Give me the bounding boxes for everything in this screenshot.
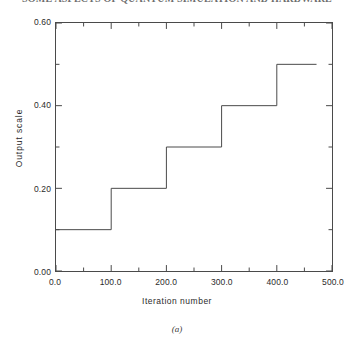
- data-series-step-line: [56, 64, 317, 229]
- y-axis-tick-labels: 0.600.400.200.00: [0, 0, 51, 346]
- x-axis-tick-label: 400.0: [252, 277, 302, 287]
- y-axis-title: Output scale: [14, 83, 24, 193]
- x-axis-tick-label: 0.0: [30, 277, 80, 287]
- figure-chart-a: 0.600.400.200.00 Output scale 0.0100.020…: [0, 0, 354, 346]
- x-axis-tick-label: 200.0: [141, 277, 191, 287]
- y-axis-tick-label: 0.20: [5, 184, 51, 194]
- x-axis-title: Iteration number: [0, 296, 354, 306]
- x-axis-tick-label: 300.0: [197, 277, 247, 287]
- plot-svg: [56, 23, 332, 271]
- x-axis-tick-label: 100.0: [86, 277, 136, 287]
- plot-area: [55, 22, 333, 272]
- figure-caption: (a): [0, 324, 354, 334]
- y-axis-tick-label: 0.40: [5, 100, 51, 110]
- x-axis-tick-label: 500.0: [308, 277, 354, 287]
- y-axis-tick-label: 0.60: [5, 17, 51, 27]
- y-axis-tick-label: 0.00: [5, 267, 51, 277]
